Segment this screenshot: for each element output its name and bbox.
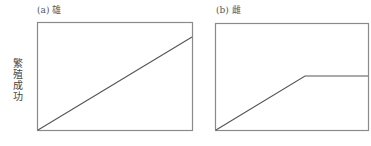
panel-b-frame <box>216 24 369 131</box>
diagram-canvas <box>0 0 371 146</box>
panel-a <box>38 23 193 131</box>
panel-b-curve <box>216 76 368 130</box>
panel-a-curve <box>38 37 192 130</box>
panel-a-frame <box>38 23 193 131</box>
panel-b <box>216 24 369 131</box>
